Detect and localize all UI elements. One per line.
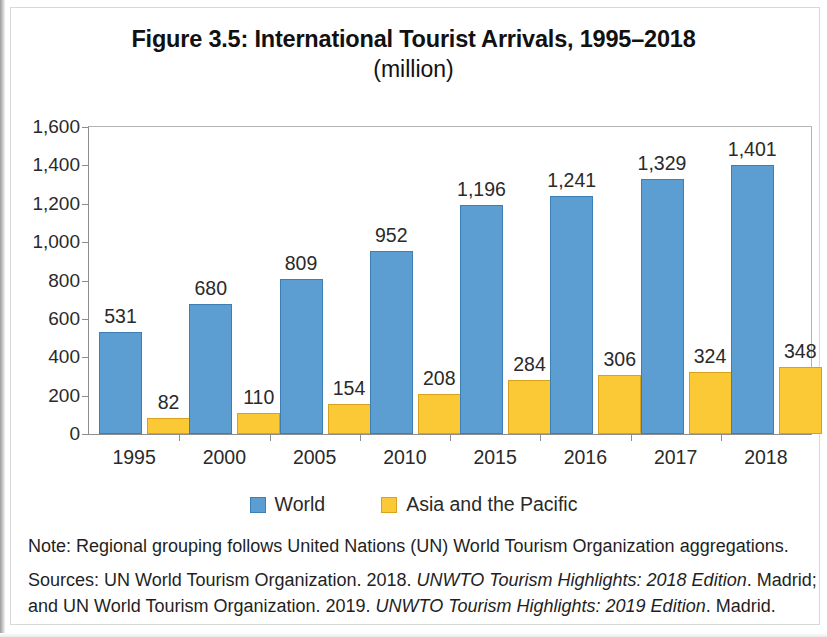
bar-value-label: 952	[375, 224, 408, 247]
y-axis-tick-mark	[82, 319, 89, 320]
bar-asia-pacific: 348	[779, 367, 822, 434]
y-axis-tick-label: 1,600	[32, 116, 80, 138]
plot-area: 02004006008001,0001,2001,4001,600 531821…	[88, 126, 812, 435]
legend-swatch-asia-pacific-icon	[381, 497, 397, 513]
y-axis-tick-mark	[82, 165, 89, 166]
sources-line-2-title: UNWTO Tourism Highlights: 2019 Edition	[376, 596, 706, 616]
chart-title: Figure 3.5: International Tourist Arriva…	[0, 26, 827, 54]
title-block: Figure 3.5: International Tourist Arriva…	[0, 26, 827, 83]
x-axis-tick-mark	[540, 434, 541, 441]
x-axis-category-label: 2010	[360, 446, 450, 469]
legend-label: Asia and the Pacific	[406, 493, 577, 516]
x-axis-category-label: 2015	[450, 446, 540, 469]
x-axis-tick-mark	[360, 434, 361, 441]
y-axis-tick-label: 0	[69, 423, 80, 445]
bar-world: 1,241	[550, 196, 593, 434]
y-axis-tick-label: 600	[48, 308, 80, 330]
bar-value-label: 1,196	[457, 178, 506, 201]
y-axis-tick-label: 1,200	[32, 193, 80, 215]
bar-world: 1,329	[641, 179, 684, 434]
x-axis-category-label: 2018	[721, 446, 811, 469]
bar-value-label: 531	[104, 305, 137, 328]
chart-legend: WorldAsia and the Pacific	[0, 493, 827, 516]
bar-group: 9522082010	[360, 127, 450, 434]
sources-line-1-suffix: . Madrid;	[747, 570, 817, 590]
y-axis-tick-label: 200	[48, 385, 80, 407]
bar-world: 1,196	[460, 205, 503, 434]
y-axis-tick-mark	[82, 281, 89, 282]
x-axis-category-label: 2005	[270, 446, 360, 469]
sources-line-1-title: UNWTO Tourism Highlights: 2018 Edition	[417, 570, 747, 590]
y-axis-tick-label: 800	[48, 270, 80, 292]
note-text: Note: Regional grouping follows United N…	[28, 533, 818, 559]
sources-line-2: and UN World Tourism Organization. 2019.…	[28, 593, 818, 619]
y-axis-tick-mark	[82, 396, 89, 397]
y-axis-tick-label: 400	[48, 346, 80, 368]
bar-world: 809	[280, 279, 323, 434]
y-axis-tick-mark	[82, 127, 89, 128]
bar-group: 6801102000	[179, 127, 269, 434]
bar-value-label: 82	[158, 391, 180, 414]
x-axis-category-label: 2016	[540, 446, 630, 469]
bar-value-label: 1,401	[728, 138, 777, 161]
legend-label: World	[275, 493, 326, 516]
y-axis-tick-label: 1,400	[32, 154, 80, 176]
x-axis-tick-mark	[721, 434, 722, 441]
sources-line-2-suffix: . Madrid.	[706, 596, 776, 616]
sources-line-1: Sources: UN World Tourism Organization. …	[28, 567, 818, 593]
bar-value-label: 348	[784, 340, 817, 363]
y-axis-tick-mark	[82, 242, 89, 243]
bar-group: 531821995	[89, 127, 179, 434]
legend-item: Asia and the Pacific	[381, 493, 577, 516]
bar-group: 1,3293242017	[631, 127, 721, 434]
sources-line-2-prefix: and UN World Tourism Organization. 2019.	[28, 596, 376, 616]
chart-subtitle: (million)	[0, 56, 827, 84]
bar-group: 1,1962842015	[450, 127, 540, 434]
bar-value-label: 809	[285, 252, 318, 275]
y-axis-tick-label: 1,000	[32, 231, 80, 253]
x-axis-tick-mark	[270, 434, 271, 441]
y-axis-tick-mark	[82, 357, 89, 358]
bar-group: 1,4013482018	[721, 127, 811, 434]
legend-swatch-world-icon	[250, 497, 266, 513]
bar-value-label: 1,329	[638, 152, 687, 175]
bar-value-label: 1,241	[547, 169, 596, 192]
figure-container: Figure 3.5: International Tourist Arriva…	[0, 0, 827, 637]
x-axis-tick-mark	[179, 434, 180, 441]
legend-item: World	[250, 493, 326, 516]
bar-world: 952	[370, 251, 413, 434]
x-axis-category-label: 2000	[179, 446, 269, 469]
sources-line-1-prefix: Sources: UN World Tourism Organization. …	[28, 570, 417, 590]
bar-world: 531	[99, 332, 142, 434]
footnotes: Note: Regional grouping follows United N…	[28, 533, 818, 619]
x-axis-category-label: 1995	[89, 446, 179, 469]
bar-value-label: 680	[194, 277, 227, 300]
bar-group: 8091542005	[270, 127, 360, 434]
x-axis-tick-mark	[450, 434, 451, 441]
bar-world: 680	[189, 304, 232, 434]
y-axis-tick-mark	[82, 204, 89, 205]
x-axis-tick-mark	[631, 434, 632, 441]
bar-group: 1,2413062016	[540, 127, 630, 434]
y-axis-tick-mark	[82, 434, 89, 435]
x-axis-category-label: 2017	[631, 446, 721, 469]
bar-world: 1,401	[731, 165, 774, 434]
